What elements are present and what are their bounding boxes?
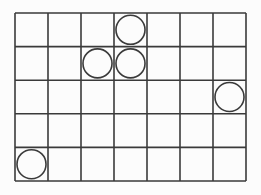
circle-marker [116,49,145,78]
circle-marker [83,49,112,78]
grid-svg [13,11,248,183]
circle-marker [17,150,46,179]
circle-marker [215,82,244,111]
circle-marker [116,15,145,44]
grid-diagram [15,13,248,183]
